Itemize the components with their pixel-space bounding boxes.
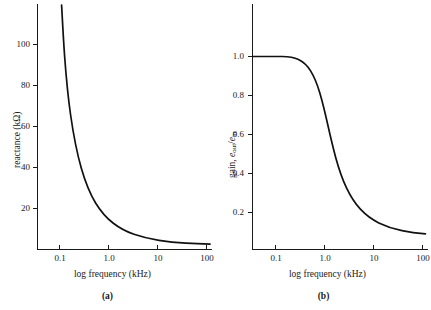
plot-a-canvas	[0, 0, 215, 310]
x-axis-title-a: log frequency (kHz)	[45, 269, 180, 279]
y-axis-title-b-sub-in: in	[230, 132, 237, 137]
y-tick-label-a-80: 80	[6, 81, 30, 90]
y-tick-label-b-0.2: 0.2	[218, 208, 244, 217]
x-tick-label-b-100: 100	[407, 254, 431, 263]
curve-reactance	[62, 5, 210, 244]
panel-a: 20 40 60 80 100 0.1 1.0 10 100 log frequ…	[0, 0, 215, 310]
figure-container: 20 40 60 80 100 0.1 1.0 10 100 log frequ…	[0, 0, 431, 310]
y-tick-label-b-0.8: 0.8	[218, 91, 244, 100]
x-tick-label-b-0.1: 0.1	[260, 254, 292, 263]
y-axis-title-a: reactance (kΩ)	[12, 112, 22, 168]
y-axis-title-b-slash: /	[227, 141, 237, 144]
panel-caption-a: (a)	[0, 291, 215, 301]
y-tick-label-a-20: 20	[6, 204, 30, 213]
x-tick-label-a-0.1: 0.1	[44, 254, 76, 263]
y-axis-title-b-sub-out: out	[230, 144, 237, 153]
panel-b: 0.2 0.4 0.6 0.8 1.0 0.1 1.0 10 100 log f…	[216, 0, 431, 310]
y-tick-label-b-1.0: 1.0	[218, 52, 244, 61]
curve-gain	[253, 57, 426, 234]
x-tick-label-a-1.0: 1.0	[93, 254, 125, 263]
y-axis-title-b-prefix: gain,	[227, 157, 237, 178]
plot-b-canvas	[216, 0, 431, 310]
y-axis-title-b: gain, eout/ein	[227, 132, 237, 178]
y-axis-title-b-e-in: e	[227, 137, 237, 141]
x-tick-label-b-10: 10	[358, 254, 390, 263]
x-tick-label-b-1.0: 1.0	[309, 254, 341, 263]
y-tick-label-a-100: 100	[4, 40, 30, 49]
x-axis-title-b: log frequency (kHz)	[260, 269, 395, 279]
x-tick-label-a-10: 10	[142, 254, 174, 263]
panel-caption-b: (b)	[216, 291, 431, 301]
y-axis-title-b-e-out: e	[227, 153, 237, 157]
